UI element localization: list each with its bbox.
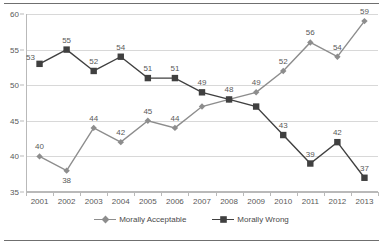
- data-point-label: 52: [279, 57, 288, 66]
- data-point-label: 49: [198, 78, 207, 87]
- x-tick-mark: [188, 192, 189, 196]
- x-tick-mark: [134, 192, 135, 196]
- y-tick-label: 50: [10, 81, 19, 90]
- y-tick-mark: [20, 85, 24, 86]
- x-tick-label: 2005: [139, 197, 157, 206]
- x-tick-mark: [270, 192, 271, 196]
- chart-figure: 354045505560 403844424544495256545953555…: [0, 0, 383, 244]
- x-tick-mark: [324, 192, 325, 196]
- data-point-label: 56: [306, 28, 315, 37]
- x-tick-label: 2007: [193, 197, 211, 206]
- x-tick-mark: [297, 192, 298, 196]
- data-point-label: 53: [26, 53, 35, 62]
- data-point-label: 49: [252, 78, 261, 87]
- x-axis: 2001200220032004200520062007200820092010…: [26, 192, 378, 212]
- y-tick-label: 60: [10, 10, 19, 19]
- data-point-label: 54: [333, 43, 342, 52]
- data-point-label: 45: [143, 107, 152, 116]
- x-tick-mark: [53, 192, 54, 196]
- x-tick-mark: [161, 192, 162, 196]
- legend-label-morally-acceptable: Morally Acceptable: [119, 215, 186, 224]
- x-tick-mark: [26, 192, 27, 196]
- x-tick-label: 2003: [85, 197, 103, 206]
- x-tick-label: 2008: [220, 197, 238, 206]
- data-point-label: 43: [279, 121, 288, 130]
- y-tick-label: 35: [10, 188, 19, 197]
- data-point-label: 39: [306, 150, 315, 159]
- data-point-label: 44: [170, 114, 179, 123]
- data-point-label: 42: [116, 128, 125, 137]
- x-tick-label: 2009: [247, 197, 265, 206]
- x-tick-mark: [107, 192, 108, 196]
- top-divider: [4, 3, 379, 4]
- y-axis: 354045505560: [0, 14, 24, 192]
- y-tick-mark: [20, 192, 24, 193]
- x-tick-label: 2002: [58, 197, 76, 206]
- legend-marker-diamond-icon: [94, 214, 116, 224]
- x-tick-label: 2006: [166, 197, 184, 206]
- x-tick-mark: [378, 192, 379, 196]
- data-labels-layer: 4038444245444952565459535552545151494843…: [26, 14, 378, 192]
- legend-label-morally-wrong: Morally Wrong: [237, 215, 288, 224]
- data-point-label: 42: [333, 128, 342, 137]
- bottom-divider: [4, 240, 379, 241]
- legend-marker-square-icon: [212, 214, 234, 224]
- x-tick-label: 2011: [302, 197, 319, 206]
- chart-legend: Morally Acceptable Morally Wrong: [0, 214, 383, 224]
- legend-item-morally-wrong[interactable]: Morally Wrong: [212, 214, 288, 224]
- data-point-label: 54: [116, 43, 125, 52]
- x-tick-mark: [351, 192, 352, 196]
- data-point-label: 51: [143, 64, 152, 73]
- data-point-label: 51: [170, 64, 179, 73]
- data-point-label: 48: [225, 85, 234, 94]
- x-tick-label: 2012: [328, 197, 346, 206]
- y-tick-mark: [20, 120, 24, 121]
- y-tick-mark: [20, 14, 24, 15]
- data-point-label: 52: [89, 57, 98, 66]
- legend-item-morally-acceptable[interactable]: Morally Acceptable: [94, 214, 186, 224]
- data-point-label: 59: [360, 7, 369, 16]
- x-tick-label: 2004: [112, 197, 130, 206]
- y-tick-mark: [20, 49, 24, 50]
- x-tick-mark: [216, 192, 217, 196]
- x-tick-label: 2001: [31, 197, 49, 206]
- data-point-label: 38: [62, 176, 71, 185]
- x-tick-label: 2010: [274, 197, 292, 206]
- y-tick-label: 55: [10, 45, 19, 54]
- data-point-label: 55: [62, 36, 71, 45]
- data-point-label: 44: [89, 114, 98, 123]
- data-point-label: 37: [360, 164, 369, 173]
- y-tick-mark: [20, 156, 24, 157]
- y-tick-label: 45: [10, 116, 19, 125]
- y-tick-label: 40: [10, 152, 19, 161]
- x-tick-mark: [243, 192, 244, 196]
- x-tick-label: 2013: [356, 197, 374, 206]
- x-tick-mark: [80, 192, 81, 196]
- data-point-label: 40: [35, 142, 44, 151]
